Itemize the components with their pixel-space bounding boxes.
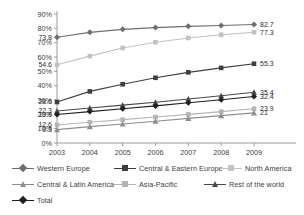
- data-point-diamond: [120, 26, 126, 32]
- data-point-square: [120, 46, 125, 51]
- legend-label: Total: [37, 196, 53, 205]
- data-point-diamond: [185, 23, 191, 29]
- x-axis-tick-label: 2007: [180, 148, 196, 157]
- series-start-value-label: 54.6: [38, 61, 52, 68]
- legend-marker-square-icon: [114, 163, 136, 173]
- series-line: [57, 64, 254, 102]
- x-axis-tick-label: 2008: [213, 148, 229, 157]
- series-end-value-label: 55.3: [260, 60, 274, 67]
- data-point-square: [55, 62, 60, 67]
- series-central-eastern-europe: [55, 61, 257, 104]
- legend-row: Total: [8, 192, 300, 208]
- x-axis-tick-label: 2004: [82, 148, 98, 157]
- data-point-square: [88, 54, 93, 59]
- series-asia-pacific: [55, 106, 257, 127]
- series-end-value-label: 32.4: [260, 93, 274, 100]
- legend-label: Asia-Pacific: [139, 180, 177, 189]
- series-start-value-label: 73.8: [38, 34, 52, 41]
- legend-marker-diamond-icon: [12, 195, 34, 205]
- legend-label: Central & Latin America: [37, 180, 114, 189]
- series-north-america: [55, 30, 257, 67]
- x-axis-tick-label: 2005: [115, 148, 131, 157]
- series-start-value-label: 19.9: [38, 111, 52, 118]
- data-point-diamond: [218, 22, 224, 28]
- x-axis-tick-label: 2003: [49, 148, 65, 157]
- data-point-square: [88, 89, 93, 94]
- series-total: [54, 94, 257, 118]
- series-end-value-label: 77.3: [260, 29, 274, 36]
- data-point-square: [55, 123, 60, 128]
- legend-marker-square-icon: [220, 163, 242, 173]
- data-point-square: [120, 82, 125, 87]
- x-axis-tick-label: 2006: [148, 148, 164, 157]
- data-point-diamond: [54, 34, 60, 40]
- x-axis-tick-label: 2009: [246, 148, 262, 157]
- legend-row: Central & Latin America Asia-Pacific Res…: [8, 176, 300, 192]
- data-point-square: [219, 66, 224, 71]
- data-point-diamond: [251, 21, 257, 27]
- legend-item-western-europe[interactable]: Western Europe: [12, 160, 90, 176]
- series-start-value-label: 12.6: [38, 121, 52, 128]
- legend-marker-diamond-icon: [12, 163, 34, 173]
- series-line: [57, 32, 254, 65]
- legend-label: Central & Eastern Europe: [139, 164, 223, 173]
- chart-container: 0%10%20%30%40%50%60%70%80%90%20032004200…: [0, 0, 304, 215]
- legend-item-total[interactable]: Total: [12, 192, 53, 208]
- data-point-square: [219, 32, 224, 37]
- data-point-square: [186, 36, 191, 41]
- chart-legend: Western Europe Central & Eastern Europe …: [8, 160, 300, 208]
- legend-marker-triangle-icon: [204, 179, 226, 189]
- series-central-latin-america: [54, 110, 257, 132]
- data-point-square: [186, 70, 191, 75]
- data-point-square: [153, 75, 158, 80]
- data-point-square: [153, 40, 158, 45]
- legend-row: Western Europe Central & Eastern Europe …: [8, 160, 300, 176]
- data-point-square: [252, 30, 257, 35]
- legend-item-central-latin-america[interactable]: Central & Latin America: [12, 176, 114, 192]
- y-axis-tick-label: 40%: [38, 81, 53, 90]
- legend-item-asia-pacific[interactable]: Asia-Pacific: [114, 176, 177, 192]
- legend-marker-triangle-icon: [12, 179, 34, 189]
- data-point-square: [252, 61, 257, 66]
- legend-item-central-eastern-europe[interactable]: Central & Eastern Europe: [114, 160, 223, 176]
- series-end-value-label: 82.7: [260, 21, 274, 28]
- y-axis-tick-label: 0%: [42, 139, 53, 148]
- y-axis-tick-label: 50%: [38, 67, 53, 76]
- legend-label: Rest of the world: [229, 180, 284, 189]
- series-start-value-label: 28.6: [38, 98, 52, 105]
- data-point-diamond: [87, 29, 93, 35]
- data-point-diamond: [153, 25, 159, 31]
- legend-item-rest-of-the-world[interactable]: Rest of the world: [204, 176, 284, 192]
- data-point-square: [55, 100, 60, 105]
- series-western-europe: [54, 21, 257, 40]
- series-end-value-label: 23.9: [260, 105, 274, 112]
- legend-marker-square-icon: [114, 179, 136, 189]
- legend-label: North America: [245, 164, 291, 173]
- legend-item-north-america[interactable]: North America: [220, 160, 291, 176]
- legend-label: Western Europe: [37, 164, 90, 173]
- y-axis-tick-label: 90%: [38, 10, 53, 19]
- y-axis-tick-label: 80%: [38, 24, 53, 33]
